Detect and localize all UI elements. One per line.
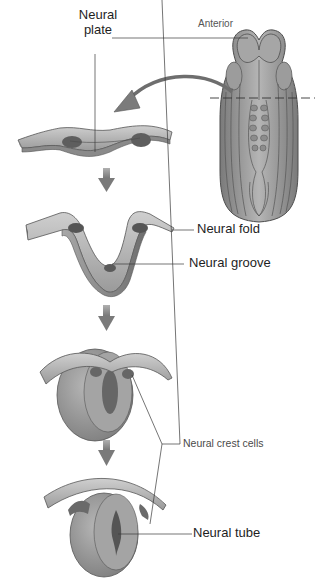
label-neural-fold: Neural fold [197, 222, 260, 237]
label-neural-plate: Neural plate [78, 8, 118, 38]
label-neural-plate-line2: plate [78, 23, 118, 38]
closing-stage [40, 349, 172, 441]
label-neural-plate-line1: Neural [78, 8, 118, 23]
neural-groove-stage [26, 212, 174, 297]
neural-tube-stage [44, 478, 166, 577]
diagram-canvas [0, 0, 326, 588]
label-anterior: Anterior [198, 18, 233, 30]
label-neural-crest-cells: Neural crest cells [183, 437, 264, 449]
down-arrow-2 [98, 305, 115, 331]
curved-arrow [114, 76, 232, 112]
label-neural-groove: Neural groove [189, 256, 271, 271]
neural-tube-diagram: Neural plate Anterior Neural fold Neural… [0, 0, 326, 588]
down-arrow-3 [98, 440, 115, 466]
label-neural-tube: Neural tube [193, 526, 260, 541]
embryo-dorsal-view [210, 30, 315, 222]
down-arrow-1 [98, 168, 115, 192]
